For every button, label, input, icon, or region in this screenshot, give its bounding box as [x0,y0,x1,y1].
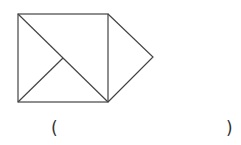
inner-segment [18,58,63,102]
right-triangle [108,14,153,102]
answer-close-paren: ) [226,120,233,137]
answer-open-paren: ( [51,120,58,137]
answer-blank[interactable] [62,120,222,138]
